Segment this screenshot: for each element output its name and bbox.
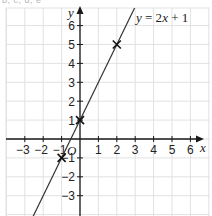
x-tick-label: 6	[187, 143, 194, 157]
ticks: −3−2−1123456−3−2−1123456	[16, 19, 194, 203]
x-tick-label: 2	[113, 143, 120, 157]
axes	[6, 6, 204, 216]
x-tick-label: −3	[16, 143, 30, 157]
x-tick-label: 3	[132, 143, 139, 157]
y-tick-label: 6	[68, 19, 75, 33]
x-tick-label: 1	[95, 143, 102, 157]
y-tick-label: 3	[68, 76, 75, 90]
x-tick-label: −2	[34, 143, 48, 157]
x-tick-label: 5	[169, 143, 176, 157]
y-tick-label: 2	[68, 95, 75, 109]
origin-label: O	[67, 143, 77, 158]
graph: −3−2−1123456−3−2−1123456 y = 2x + 1 x y …	[0, 0, 212, 216]
y-tick-label: −3	[61, 189, 75, 203]
y-axis-arrow-icon	[77, 6, 84, 14]
y-axis-label: y	[66, 5, 74, 20]
y-tick-label: −2	[61, 170, 75, 184]
line-y-equals-2x-plus-1	[33, 8, 134, 216]
x-tick-label: 4	[150, 143, 157, 157]
y-tick-label: 5	[68, 38, 75, 52]
plot-line	[33, 8, 134, 216]
equation-label: y = 2x + 1	[134, 10, 188, 25]
x-axis-label: x	[199, 140, 206, 155]
y-tick-label: 1	[68, 114, 75, 128]
grid	[6, 8, 210, 216]
y-tick-label: 4	[68, 57, 75, 71]
